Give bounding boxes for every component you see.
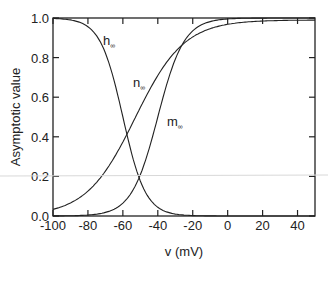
gating-asymptote-chart: -100-80-60-40-20020400.00.20.40.60.81.0 … bbox=[0, 0, 328, 284]
n-inf-label: n∞ bbox=[133, 75, 145, 91]
x-tick-label: 20 bbox=[255, 218, 269, 233]
x-tick-label: -40 bbox=[148, 218, 167, 233]
curves bbox=[53, 18, 315, 216]
x-tick-label: -60 bbox=[113, 218, 132, 233]
y-tick-label: 0.4 bbox=[31, 130, 49, 145]
h-inf-label: h∞ bbox=[103, 33, 115, 49]
y-axis-title: Asymptotic value bbox=[8, 68, 23, 166]
y-tick-label: 0.2 bbox=[31, 169, 49, 184]
y-tick-label: 1.0 bbox=[31, 11, 49, 26]
x-tick-label: 0 bbox=[224, 218, 231, 233]
y-tick-label: 0.0 bbox=[31, 209, 49, 224]
m-inf-label: m∞ bbox=[167, 114, 183, 130]
y-tick-label: 0.8 bbox=[31, 51, 49, 66]
curve-m bbox=[53, 18, 315, 216]
scan-line-artifact bbox=[0, 175, 328, 176]
x-tick-label: 40 bbox=[290, 218, 304, 233]
y-tick-label: 0.6 bbox=[31, 90, 49, 105]
x-axis-title: v (mV) bbox=[165, 244, 203, 259]
x-tick-label: -20 bbox=[183, 218, 202, 233]
x-tick-label: -80 bbox=[79, 218, 98, 233]
curve-n bbox=[53, 20, 315, 209]
